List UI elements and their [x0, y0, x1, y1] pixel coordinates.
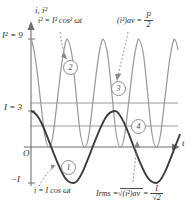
equation-irms-lhs: Irms — [96, 189, 111, 198]
callout-4: 4 — [131, 119, 146, 134]
equation-isq-average: (i²)av = I² 2 — [117, 12, 153, 30]
equation-isq-average-denominator: 2 — [144, 21, 153, 29]
isq-peak-label: I² = 9 — [2, 31, 23, 40]
i-peak-label: I = 3 — [4, 103, 22, 112]
equation-irms: Irms = √(i²)av = I √2 — [96, 185, 163, 203]
equation-isq-average-fraction: I² 2 — [144, 12, 153, 30]
leader-i-arrowhead — [51, 165, 56, 170]
leader-isq-avg-arrowhead — [115, 74, 121, 82]
equation-irms-equals-2: = — [143, 189, 148, 198]
t-axis-label: t — [182, 139, 185, 148]
plot-canvas — [0, 0, 194, 210]
leader-i-equation — [39, 168, 52, 186]
equation-irms-radical: √(i²)av — [120, 188, 143, 198]
equation-irms-radicand: (i²)av — [122, 189, 140, 198]
callout-3: 3 — [111, 81, 126, 96]
leader-isq-avg — [118, 32, 128, 76]
equation-isq: i² = I² cos² ωt — [38, 17, 82, 25]
leader-irms-arrowhead — [134, 141, 140, 148]
equation-isq-average-lhs: (i²)av — [117, 16, 135, 25]
equation-irms-fraction: I √2 — [150, 185, 162, 203]
vertical-axis-label: i, i² — [35, 6, 47, 15]
callout-1: 1 — [61, 160, 76, 175]
vertical-axis-arrow — [28, 21, 35, 30]
origin-label: O — [23, 149, 30, 158]
equation-isq-average-equals: = — [137, 16, 142, 25]
isq-curve — [31, 39, 178, 147]
callout-2: 2 — [63, 60, 78, 75]
equation-irms-denominator: √2 — [150, 194, 162, 202]
ac-current-rms-figure: i, i² I² = 9 I = 3 −I O t i² = I² cos² ω… — [0, 0, 194, 210]
equation-i: i = I cos ωt — [34, 187, 71, 195]
i-neg-peak-label: −I — [11, 175, 20, 184]
